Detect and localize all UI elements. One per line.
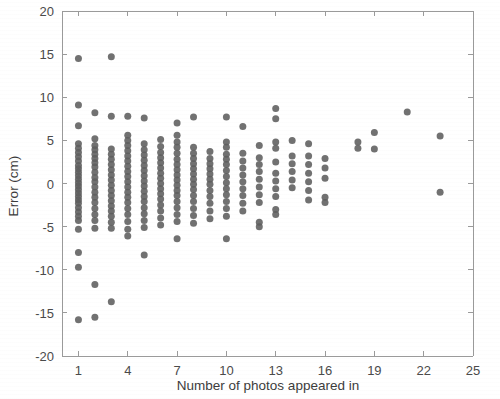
data-point xyxy=(75,226,82,233)
data-point xyxy=(223,191,230,198)
data-point xyxy=(91,217,98,224)
data-point xyxy=(124,218,131,225)
data-point xyxy=(354,139,361,146)
x-tick-label: 19 xyxy=(367,363,381,378)
data-point xyxy=(206,181,213,188)
data-point xyxy=(124,211,131,218)
data-point xyxy=(289,152,296,159)
y-tick-label: 0 xyxy=(47,177,54,192)
data-point xyxy=(223,179,230,186)
data-point xyxy=(322,155,329,162)
data-point xyxy=(75,122,82,129)
data-point xyxy=(157,136,164,143)
data-point xyxy=(206,208,213,215)
data-point xyxy=(108,225,115,232)
data-point xyxy=(124,113,131,120)
data-point xyxy=(141,210,148,217)
scatter-plot-figure: -20-15-10-505101520 147101316192225 Numb… xyxy=(0,0,500,399)
y-tick-label: 15 xyxy=(40,47,54,62)
data-point xyxy=(256,223,263,230)
data-point xyxy=(108,219,115,226)
data-point xyxy=(354,145,361,152)
data-point xyxy=(124,226,131,233)
data-point xyxy=(223,161,230,168)
x-tick-label: 10 xyxy=(219,363,233,378)
data-point xyxy=(256,142,263,149)
data-point xyxy=(91,109,98,116)
data-point xyxy=(91,314,98,321)
data-point xyxy=(322,164,329,171)
data-point xyxy=(157,196,164,203)
data-point xyxy=(190,144,197,151)
data-point xyxy=(206,200,213,207)
data-point xyxy=(223,173,230,180)
data-point xyxy=(75,102,82,109)
data-point xyxy=(190,212,197,219)
data-point xyxy=(256,191,263,198)
data-point xyxy=(239,192,246,199)
data-point xyxy=(272,115,279,122)
data-point xyxy=(371,146,378,153)
data-point xyxy=(91,205,98,212)
data-point xyxy=(141,114,148,121)
data-point xyxy=(239,123,246,130)
data-point xyxy=(289,160,296,167)
data-point xyxy=(108,113,115,120)
data-point xyxy=(206,187,213,194)
data-point xyxy=(141,204,148,211)
data-point xyxy=(223,198,230,205)
data-point xyxy=(239,164,246,171)
data-point xyxy=(206,148,213,155)
x-tick-label: 13 xyxy=(268,363,282,378)
data-point xyxy=(124,233,131,240)
data-point xyxy=(272,211,279,218)
data-point xyxy=(239,178,246,185)
data-point xyxy=(437,189,444,196)
data-point xyxy=(206,215,213,222)
data-point xyxy=(305,178,312,185)
data-point xyxy=(75,217,82,224)
data-point xyxy=(91,135,98,142)
data-point xyxy=(371,129,378,136)
data-point xyxy=(108,53,115,60)
data-point xyxy=(256,183,263,190)
data-point xyxy=(108,298,115,305)
data-point xyxy=(272,145,279,152)
y-tick-label: -20 xyxy=(35,349,54,364)
data-point xyxy=(322,175,329,182)
data-point xyxy=(322,199,329,206)
x-tick-label: 25 xyxy=(466,363,480,378)
data-point xyxy=(157,143,164,150)
data-point xyxy=(91,199,98,206)
y-tick-label: -5 xyxy=(42,220,54,235)
data-point xyxy=(190,186,197,193)
x-tick-label: 4 xyxy=(124,363,131,378)
x-axis-title: Number of photos appeared in xyxy=(177,378,359,393)
data-point xyxy=(305,187,312,194)
x-tick-label: 16 xyxy=(318,363,332,378)
data-point xyxy=(174,192,181,199)
data-point xyxy=(289,137,296,144)
data-point xyxy=(75,55,82,62)
data-point xyxy=(289,184,296,191)
data-point xyxy=(305,161,312,168)
data-point xyxy=(108,213,115,220)
data-point xyxy=(239,200,246,207)
data-point xyxy=(174,211,181,218)
data-point xyxy=(272,139,279,146)
plot-canvas: -20-15-10-505101520 147101316192225 Numb… xyxy=(0,0,500,399)
y-tick-label: 5 xyxy=(47,133,54,148)
data-point xyxy=(157,208,164,215)
data-point xyxy=(223,144,230,151)
data-point xyxy=(256,199,263,206)
data-point xyxy=(223,114,230,121)
data-point xyxy=(91,225,98,232)
data-point xyxy=(223,235,230,242)
data-point xyxy=(404,108,411,115)
data-point xyxy=(190,198,197,205)
data-point xyxy=(239,208,246,215)
data-point xyxy=(91,281,98,288)
data-point xyxy=(256,161,263,168)
data-point xyxy=(174,120,181,127)
data-point xyxy=(223,213,230,220)
